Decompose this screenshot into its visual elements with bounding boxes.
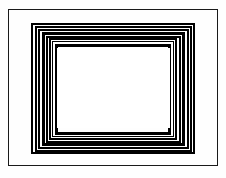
figure-canvas — [0, 0, 226, 178]
center-blank-panel — [57, 48, 170, 128]
